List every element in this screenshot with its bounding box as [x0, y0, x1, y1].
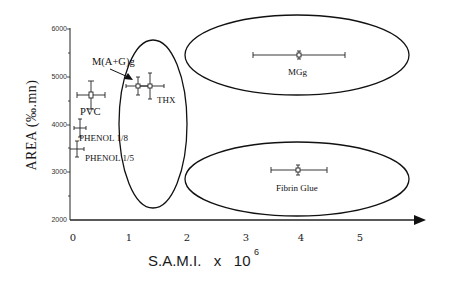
label-thx: THX [157, 95, 176, 105]
label-phenol-1-8: PHENOL 1/8 [79, 133, 128, 143]
data-point-mgg [253, 51, 345, 59]
y-tick-4000: 4000 [51, 121, 67, 128]
data-point-pvc [77, 81, 105, 109]
x-tick-3: 3 [243, 232, 249, 243]
y-tick-2000: 2000 [51, 216, 67, 223]
x-tick-0: 0 [70, 232, 76, 243]
x-tick-4: 4 [298, 232, 304, 243]
x-tick-1: 1 [126, 232, 132, 243]
x-axis-arrow-icon [414, 215, 426, 225]
label-pvc: PVC [80, 106, 100, 117]
label-magg: M(A+G)g [92, 56, 135, 68]
x-tick-2: 2 [184, 232, 190, 243]
y-tick-3000: 3000 [51, 168, 67, 175]
label-mgg: MGg [288, 67, 308, 77]
data-point-fibrin-glue [271, 165, 327, 175]
scatter-chart: 6000 5000 4000 3000 2000 AREA (‰.mn) 0 1… [0, 0, 449, 289]
data-point-phenol-1-5 [70, 141, 84, 157]
y-tick-5000: 5000 [51, 73, 67, 80]
x-axis-label: S.A.M.I. x 10 [148, 252, 251, 269]
label-phenol-1-5: PHENOL 1/5 [85, 153, 134, 163]
x-axis: 0 1 2 3 4 5 [70, 215, 426, 243]
y-axis-label: AREA (‰.mn) [24, 79, 40, 170]
y-tick-6000: 6000 [51, 25, 67, 32]
ellipse-fibrin-glue [185, 142, 409, 216]
label-fibrin-glue: Fibrin Glue [276, 183, 318, 193]
x-axis-label-exponent: 6 [254, 247, 259, 257]
y-axis: 6000 5000 4000 3000 2000 [51, 25, 70, 223]
x-tick-5: 5 [357, 232, 363, 243]
